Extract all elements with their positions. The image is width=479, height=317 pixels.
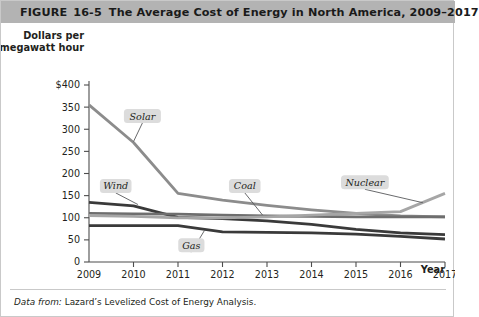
- y-tick-label: 150: [62, 190, 80, 201]
- leader-line-nuclear: [365, 189, 423, 202]
- data-series-group: [89, 105, 445, 239]
- footnote-divider: [10, 289, 446, 290]
- x-tick-label: 2016: [388, 269, 412, 280]
- series-label-coal: Coal: [234, 180, 256, 191]
- y-tick-label: 250: [62, 146, 80, 157]
- y-tick-label: $400: [56, 79, 80, 90]
- x-tick-label: 2009: [77, 269, 101, 280]
- figure-header-bar: FIGURE 16-5 The Average Cost of Energy i…: [1, 1, 455, 23]
- x-axis-title: Year: [420, 264, 445, 275]
- series-label-solar: Solar: [130, 111, 157, 122]
- figure-word: FIGURE: [20, 6, 67, 19]
- x-tick-label: 2014: [299, 269, 323, 280]
- x-tick-label: 2013: [255, 269, 279, 280]
- x-tick-label: 2011: [166, 269, 190, 280]
- series-line-wind: [89, 202, 445, 234]
- source-note-text: Lazard’s Levelized Cost of Energy Analys…: [65, 297, 257, 307]
- leader-line-solar: [134, 123, 143, 142]
- y-tick-label: 200: [62, 168, 80, 179]
- y-axis-ticks: 050100150200250300350$400: [56, 79, 89, 267]
- x-axis-ticks: 200920102011201220132014201520162017: [77, 262, 455, 280]
- y-axis-title: Dollars per megawatt hour: [1, 30, 84, 53]
- source-note-label: Data from:: [14, 297, 62, 307]
- y-axis-title-line1: Dollars per: [23, 30, 84, 41]
- leader-line-wind: [116, 193, 138, 205]
- series-label-wind: Wind: [103, 180, 128, 191]
- y-tick-label: 350: [62, 102, 80, 113]
- y-axis-title-line2: megawatt hour: [1, 42, 84, 53]
- x-tick-label: 2015: [344, 269, 368, 280]
- series-label-nuclear: Nuclear: [344, 177, 385, 188]
- line-chart: Dollars per megawatt hour 05010015020025…: [1, 23, 455, 281]
- x-tick-label: 2010: [121, 269, 145, 280]
- source-note: Data from: Lazard’s Levelized Cost of En…: [14, 297, 256, 307]
- y-tick-label: 100: [62, 212, 80, 223]
- y-tick-label: 50: [68, 234, 80, 245]
- chart-plot-area: Dollars per megawatt hour 05010015020025…: [1, 23, 455, 281]
- figure-title: The Average Cost of Energy in North Amer…: [109, 6, 479, 19]
- series-label-gas: Gas: [182, 240, 200, 251]
- x-tick-label: 2012: [210, 269, 234, 280]
- y-tick-label: 0: [74, 256, 80, 267]
- figure-number: 16-5: [73, 6, 102, 19]
- y-tick-label: 300: [62, 124, 80, 135]
